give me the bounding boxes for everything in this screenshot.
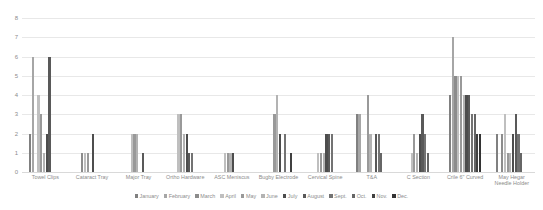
legend-swatch-icon — [283, 194, 286, 197]
y-axis-tick-label: 6 — [15, 54, 18, 60]
legend-swatch-icon — [392, 194, 395, 197]
bar-group — [115, 18, 162, 172]
bar — [232, 153, 234, 172]
legend-swatch-icon — [329, 194, 332, 197]
bar — [32, 57, 34, 173]
bar — [427, 153, 429, 172]
y-axis-tick-label: 0 — [15, 169, 18, 175]
legend-swatch-icon — [135, 194, 138, 197]
bar — [87, 153, 89, 172]
bar-chart: 012345678 Towel ClipsCataract TrayMajor … — [0, 0, 543, 210]
legend-label: January — [140, 193, 159, 199]
chart-title — [0, 0, 543, 8]
legend-item[interactable]: Nov. — [372, 193, 387, 199]
bar — [520, 153, 522, 172]
bar — [191, 153, 193, 172]
bar-group — [22, 18, 69, 172]
bar-group — [488, 18, 535, 172]
legend-item[interactable]: July — [283, 193, 297, 199]
y-axis-tick-label: 1 — [15, 150, 18, 156]
legend-item[interactable]: August — [303, 193, 325, 199]
bar-group — [302, 18, 349, 172]
y-axis-tick-label: 5 — [15, 73, 18, 79]
gridline — [22, 172, 535, 173]
bar — [48, 57, 50, 173]
y-axis-tick-label: 8 — [15, 15, 18, 21]
legend-label: Sept. — [334, 193, 347, 199]
bar-group — [442, 18, 489, 172]
legend-swatch-icon — [195, 194, 198, 197]
y-axis: 012345678 — [0, 18, 20, 172]
y-axis-tick-label: 4 — [15, 92, 18, 98]
legend-label: Nov. — [377, 193, 388, 199]
bar — [331, 134, 333, 173]
bar — [142, 153, 144, 172]
bar — [358, 114, 360, 172]
bar — [496, 134, 498, 173]
bar-group — [255, 18, 302, 172]
bar-group — [348, 18, 395, 172]
chart-legend: JanuaryFebruaryMarchAprilMayJuneJulyAugu… — [0, 193, 543, 199]
legend-label: August — [307, 193, 324, 199]
bar-group — [395, 18, 442, 172]
bar-group — [162, 18, 209, 172]
legend-item[interactable]: Oct. — [352, 193, 367, 199]
legend-label: May — [246, 193, 256, 199]
bar — [380, 153, 382, 172]
legend-item[interactable]: Sept. — [329, 193, 346, 199]
legend-label: February — [169, 193, 191, 199]
legend-swatch-icon — [164, 194, 167, 197]
legend-swatch-icon — [261, 194, 264, 197]
y-axis-tick-label: 2 — [15, 131, 18, 137]
plot-area — [22, 18, 535, 172]
legend-label: June — [266, 193, 278, 199]
legend-swatch-icon — [352, 194, 355, 197]
legend-item[interactable]: May — [241, 193, 256, 199]
y-axis-tick-label: 7 — [15, 34, 18, 40]
bar — [284, 134, 286, 173]
legend-item[interactable]: June — [261, 193, 277, 199]
legend-label: April — [225, 193, 236, 199]
legend-label: March — [200, 193, 215, 199]
bar — [290, 153, 292, 172]
bar — [369, 134, 371, 173]
bar — [92, 134, 94, 173]
legend-swatch-icon — [220, 194, 223, 197]
bar-groups — [22, 18, 535, 172]
legend-swatch-icon — [241, 194, 244, 197]
legend-label: July — [288, 193, 298, 199]
legend-item[interactable]: March — [195, 193, 215, 199]
legend-item[interactable]: Dec. — [392, 193, 408, 199]
bar-group — [209, 18, 256, 172]
legend-item[interactable]: January — [135, 193, 159, 199]
y-axis-tick-label: 3 — [15, 111, 18, 117]
bar-group — [69, 18, 116, 172]
legend-item[interactable]: February — [164, 193, 190, 199]
bar — [136, 134, 138, 173]
legend-label: Dec. — [397, 193, 408, 199]
legend-label: Oct. — [357, 193, 367, 199]
legend-swatch-icon — [303, 194, 306, 197]
bar — [279, 134, 281, 173]
legend-item[interactable]: April — [220, 193, 236, 199]
legend-swatch-icon — [372, 194, 375, 197]
bar — [479, 134, 481, 173]
